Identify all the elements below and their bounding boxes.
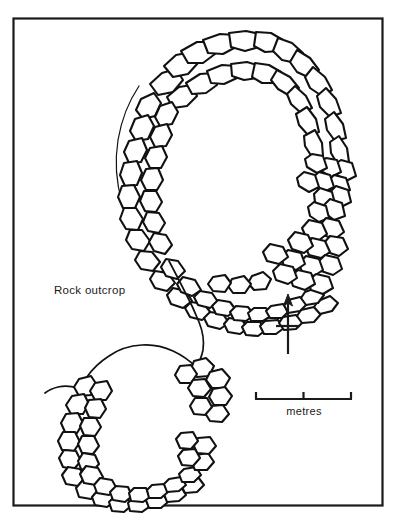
lower-enclosure <box>45 345 232 512</box>
rock-outcrop-label: Rock outcrop <box>54 284 125 296</box>
upper-enclosure <box>116 31 356 336</box>
scale-bar-unit-label: metres <box>255 405 353 417</box>
site-plan-figure: .stone { fill: #ffffff; stroke: #111111;… <box>0 0 404 527</box>
lower-enclosure-outcrop-tail <box>45 386 77 393</box>
upper-enclosure-stones <box>118 31 356 336</box>
scale-bar <box>255 392 352 399</box>
lower-enclosure-stones <box>58 358 232 512</box>
plan-drawing: .stone { fill: #ffffff; stroke: #111111;… <box>0 0 404 527</box>
